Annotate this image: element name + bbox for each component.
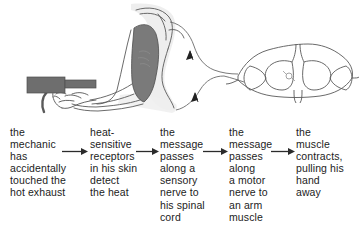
nerve-direction-arrow-sensory — [186, 50, 193, 60]
flow-arrow-4 — [271, 147, 296, 156]
reflex-arc-figure: the mechanic has accidentally touched th… — [0, 0, 359, 242]
reflex-arc-diagram — [0, 0, 359, 128]
flow-step-sensory-nerve: the message passes along a sensory nerve… — [160, 126, 216, 223]
flow-step-motor-nerve: the message passes along a motor nerve t… — [229, 126, 284, 223]
sensory-nerve — [170, 22, 238, 74]
spinal-cord-cross-section — [226, 44, 359, 103]
flow-step-stimulus: the mechanic has accidentally touched th… — [10, 126, 84, 199]
flow-arrow-3 — [203, 147, 229, 156]
flow-arrow-1 — [62, 147, 89, 156]
flow-arrow-2 — [136, 147, 160, 156]
flow-step-muscle-response: the muscle contracts, pulling his hand a… — [296, 126, 358, 199]
flow-step-receptors: heat- sensitive receptors in his skin de… — [90, 126, 150, 199]
reflex-flow-steps: the mechanic has accidentally touched th… — [0, 126, 359, 242]
motor-nerve — [176, 76, 244, 110]
nerve-direction-arrow-motor — [191, 92, 198, 102]
exhaust-pipe — [27, 77, 96, 93]
